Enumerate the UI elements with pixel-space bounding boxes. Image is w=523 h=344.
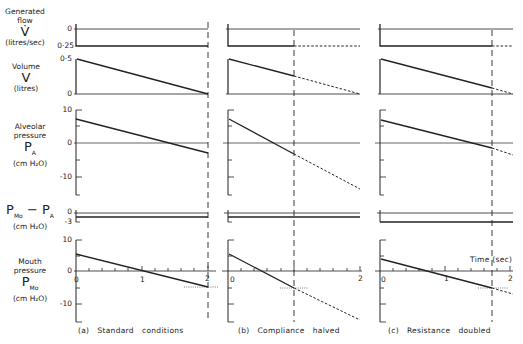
panel-c: [375, 24, 513, 322]
figure-plot: [0, 0, 523, 344]
panel-b: [222, 24, 362, 322]
panel-a: [74, 22, 218, 322]
